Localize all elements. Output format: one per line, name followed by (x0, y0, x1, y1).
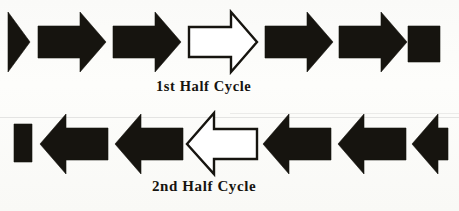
caption-first-half-cycle: 1st Half Cycle (156, 78, 251, 95)
row1-arrow-full-4 (337, 10, 409, 74)
caption-second-half-cycle: 2nd Half Cycle (152, 178, 256, 195)
row1-arrow-full-3 (263, 10, 335, 74)
row1-arrow-outline (186, 9, 260, 75)
row2-arrow-outline (184, 110, 260, 178)
row2-arrow-full-1 (38, 112, 110, 176)
row1-arrow-tail-partial (406, 24, 442, 64)
row1-arrow-full-2 (111, 10, 183, 74)
row2-arrow-full-4 (336, 112, 408, 176)
half-cycle-arrow-figure: 1st Half Cycle 2nd Half Cycle (0, 0, 459, 211)
row2-arrow-head-partial (410, 112, 450, 176)
row2-arrow-full-2 (113, 112, 185, 176)
row1-arrow-head-partial (6, 10, 32, 74)
row1-arrow-full-1 (36, 10, 108, 74)
row2-arrow-tail-partial (12, 122, 34, 164)
row2-arrow-full-3 (261, 112, 333, 176)
